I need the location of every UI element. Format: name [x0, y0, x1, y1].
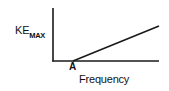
x-axis-label: Frequency — [79, 74, 129, 85]
threshold-point-label: A — [69, 62, 76, 72]
ke-max-line — [73, 26, 159, 61]
ke-max-vs-frequency-diagram: KEMAX A Frequency — [0, 0, 169, 91]
y-axis-label: KEMAX — [15, 25, 45, 37]
y-axis-label-subscript: MAX — [29, 31, 45, 40]
y-axis-label-main: KE — [15, 24, 29, 36]
